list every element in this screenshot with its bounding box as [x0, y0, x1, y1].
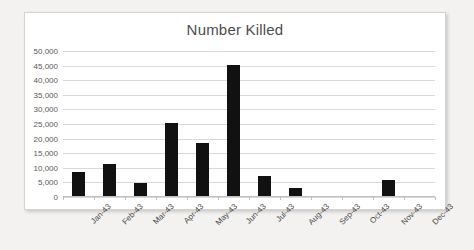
bar — [196, 143, 210, 196]
x-axis-tick-label: Sep-43 — [338, 202, 363, 227]
plot-area: 05,00010,00015,00020,00025,00030,00035,0… — [63, 51, 435, 197]
x-axis-tick-label: Aug-43 — [307, 202, 332, 227]
bar — [103, 164, 117, 196]
bar — [258, 176, 272, 196]
x-axis-tick-label: Oct-43 — [368, 202, 391, 225]
gridline — [63, 95, 435, 96]
bar — [72, 172, 86, 196]
y-axis-tick-label: 20,000 — [34, 134, 58, 143]
x-axis-tick-label: Nov-43 — [400, 202, 425, 227]
x-axis-tick-label: Jun-43 — [244, 202, 268, 226]
x-axis-tick-label: Jan-43 — [89, 202, 113, 226]
bar — [134, 183, 148, 196]
x-axis-tick — [435, 197, 436, 200]
y-axis-tick-label: 45,000 — [34, 61, 58, 70]
bar — [227, 65, 241, 196]
gridline — [63, 66, 435, 67]
gridline — [63, 124, 435, 125]
x-axis-labels: Jan-43Feb-43Mar-43Apr-43May-43Jun-43Jul-… — [63, 197, 435, 227]
chart-title: Number Killed — [25, 21, 445, 38]
gridline — [63, 139, 435, 140]
x-axis-tick-label: Feb-43 — [121, 202, 145, 226]
bar — [382, 180, 396, 196]
x-axis-tick-label: Apr-43 — [182, 202, 205, 225]
y-axis-tick-label: 30,000 — [34, 105, 58, 114]
y-axis-tick-label: 0 — [54, 193, 58, 202]
gridline — [63, 109, 435, 110]
gridline — [63, 153, 435, 154]
gridline — [63, 168, 435, 169]
chart-frame: Number Killed 05,00010,00015,00020,00025… — [24, 12, 446, 210]
y-axis-tick-label: 5,000 — [38, 178, 58, 187]
y-axis-tick-label: 25,000 — [34, 120, 58, 129]
x-axis-tick-label: Dec-43 — [431, 202, 456, 227]
gridline — [63, 51, 435, 52]
y-axis-tick-label: 10,000 — [34, 163, 58, 172]
y-axis-tick-label: 35,000 — [34, 90, 58, 99]
y-axis-tick-label: 15,000 — [34, 149, 58, 158]
gridline — [63, 80, 435, 81]
bar — [165, 123, 179, 196]
bar — [289, 188, 303, 196]
x-axis-tick-label: Mar-43 — [152, 202, 176, 226]
x-axis-tick-label: Jul-43 — [275, 202, 297, 224]
x-axis-tick-label: May-43 — [214, 202, 239, 227]
y-axis-tick-label: 40,000 — [34, 76, 58, 85]
y-axis-tick-label: 50,000 — [34, 47, 58, 56]
gridline — [63, 182, 435, 183]
